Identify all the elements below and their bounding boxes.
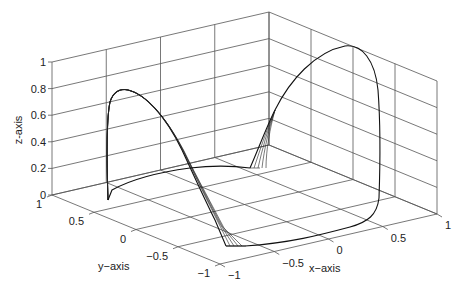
y-tick-label: 1 [36,198,42,210]
x-tick-mark [274,252,279,255]
y-tick-label: 0.5 [69,215,84,227]
z-tick-label: 0.8 [31,83,46,95]
z-tick-label: 0.6 [31,109,46,121]
x-axis-label: x−axis [309,262,341,274]
x-tick-label: −0.5 [282,257,304,269]
y-tick-label: 0 [120,233,126,245]
y-tick-mark [89,212,94,214]
x-tick-mark [329,239,334,242]
z-tick-label: 1 [40,56,46,68]
y-tick-mark [131,230,136,232]
x-tick-label: −1 [228,269,241,281]
x-tick-mark [220,264,225,267]
x-tick-label: 0.5 [391,232,406,244]
y-axis-label: y−axis [98,260,130,272]
y-tick-label: −1 [197,267,210,279]
floor-segment [108,166,260,200]
x-tick-mark [383,227,388,230]
left-arch-bundle [107,90,242,247]
axis-labels: 00.20.40.60.81−1−0.500.51−1−0.500.51x−ax… [12,56,451,281]
x-tick-mark [437,214,442,217]
grid [47,12,442,267]
z-tick-label: 0.2 [31,162,46,174]
x-tick-label: 1 [445,219,451,231]
x-tick-label: 0 [337,244,343,256]
3d-line-plot: 00.20.40.60.81−1−0.500.51−1−0.500.51x−ax… [0,0,461,287]
floor-grid-y [136,180,353,230]
z-tick-label: 0.4 [31,136,46,148]
z-axis-label: z-axis [12,115,24,144]
y-tick-mark [173,247,178,249]
y-tick-label: −0.5 [146,250,168,262]
y-tick-mark [215,264,220,266]
